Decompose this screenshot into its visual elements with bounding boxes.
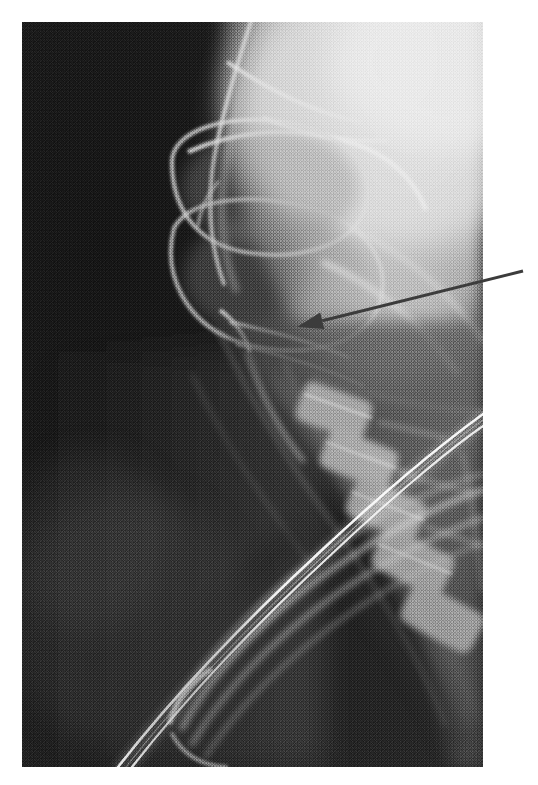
radiograph-canvas [22, 22, 483, 767]
figure-page [0, 0, 538, 785]
radiograph-image [22, 22, 483, 767]
